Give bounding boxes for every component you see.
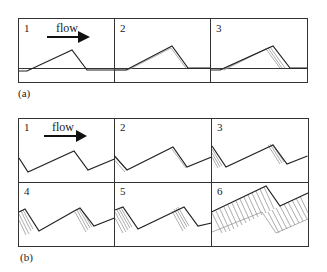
- panel-number: 4: [24, 185, 30, 197]
- dune-profile: [19, 50, 115, 71]
- panel-number: 3: [217, 121, 223, 133]
- part-b-label: (b): [20, 251, 33, 264]
- dune-profile: [115, 207, 212, 229]
- part-b: 1 flow 2 3: [19, 119, 309, 265]
- dune-profile: [212, 145, 308, 167]
- panel-number: 1: [24, 22, 30, 34]
- dune-profile: [115, 147, 212, 170]
- dune-profile: [19, 151, 115, 172]
- part-a: 1 flow 2 3 (a): [18, 19, 308, 101]
- dune-profile: [19, 208, 115, 231]
- panel-number: 5: [120, 185, 126, 197]
- panel-b4: 4: [19, 185, 115, 235]
- panel-number: 6: [217, 185, 223, 197]
- panel-number: 3: [216, 22, 222, 34]
- panel-a3: 3: [211, 22, 308, 70]
- part-a-label: (a): [18, 87, 31, 100]
- panel-b5: 5: [115, 185, 212, 233]
- panel-number: 2: [120, 121, 126, 133]
- panel-number: 1: [24, 121, 30, 133]
- flow-label: flow: [52, 120, 74, 134]
- panel-b6: 6: [212, 185, 309, 233]
- flow-label: flow: [56, 21, 78, 35]
- panel-b2: 2: [115, 121, 212, 172]
- panel-a1: 1 flow: [19, 21, 115, 71]
- panel-b1: 1 flow: [19, 120, 115, 172]
- panel-number: 2: [120, 22, 126, 34]
- dune-profile: [115, 46, 211, 70]
- panel-a2: 2: [115, 22, 211, 70]
- hatched-deposit: [212, 144, 284, 168]
- panel-b3: 3: [212, 121, 308, 168]
- previous-profile: [172, 149, 186, 168]
- dune-migration-diagram: 1 flow 2 3 (a): [0, 0, 327, 272]
- dune-profile: [211, 46, 308, 70]
